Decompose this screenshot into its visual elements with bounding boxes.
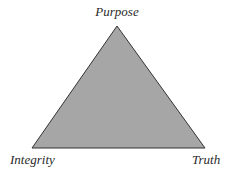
- vertex-label-purpose: Purpose: [95, 5, 138, 18]
- triangle-diagram: Purpose Integrity Truth: [0, 0, 232, 174]
- vertex-label-truth: Truth: [192, 153, 220, 166]
- vertex-label-integrity: Integrity: [10, 153, 55, 166]
- triangle-shape: [0, 0, 232, 174]
